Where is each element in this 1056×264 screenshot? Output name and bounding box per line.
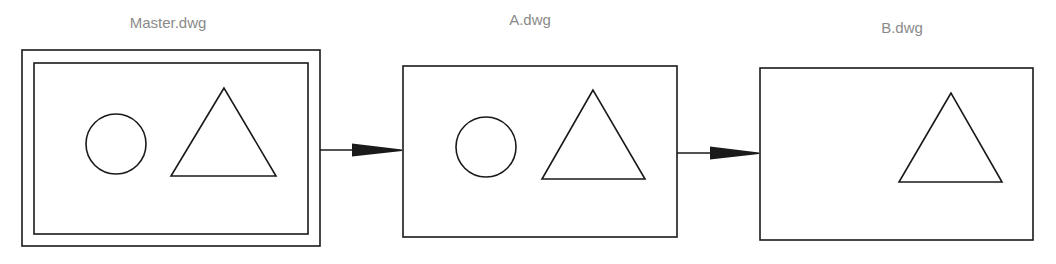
xref-arrow-master-to-a xyxy=(320,144,402,157)
arrowhead-icon xyxy=(352,144,402,157)
xref-diagram xyxy=(0,0,1056,264)
triangle-shape xyxy=(899,93,1002,182)
master-drawing xyxy=(22,50,320,246)
a-frame xyxy=(403,66,677,237)
triangle-shape xyxy=(542,90,645,179)
b-frame xyxy=(760,68,1033,240)
triangle-shape xyxy=(171,88,276,176)
xref-arrow-a-to-b xyxy=(677,147,759,160)
a-drawing xyxy=(403,66,677,237)
circle-shape xyxy=(86,114,146,174)
master-inner-frame xyxy=(34,63,308,234)
master-outer-frame xyxy=(22,50,320,246)
arrowhead-icon xyxy=(710,147,759,160)
circle-shape xyxy=(456,117,516,177)
b-drawing xyxy=(760,68,1033,240)
